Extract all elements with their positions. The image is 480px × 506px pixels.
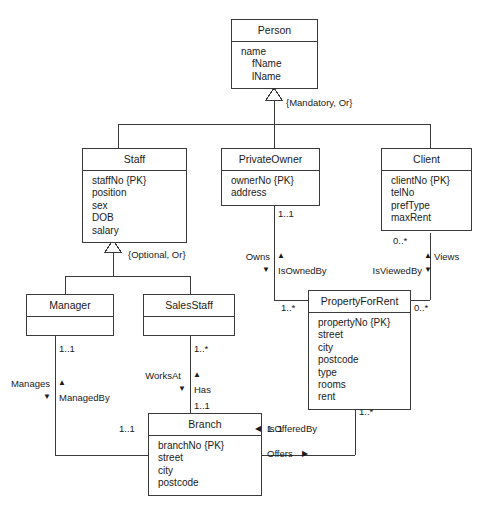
multiplicity-property-left: 1..* [281,302,295,313]
class-name-propertyforrent: PropertyForRent [309,291,410,313]
class-name-staff: Staff [83,149,186,171]
class-name-salesstaff: SalesStaff [144,295,234,317]
arrow-up-icon-isviewedby: ▲ [424,252,432,260]
attribute: branchNo {PK} [158,440,261,452]
class-attributes-privateowner: ownerNo {PK} address [222,171,319,205]
multiplicity-privateowner-bottom: 1..1 [278,208,294,219]
attribute: clientNo {PK} [391,175,471,187]
attribute: postcode [318,354,410,366]
attribute: city [318,342,410,354]
multiplicity-client-bottom: 0..* [393,235,407,246]
generalization-triangle-person [266,88,282,100]
class-name-person: Person [232,20,317,42]
class-box-branch[interactable]: Branch branchNo {PK} street city postcod… [148,413,262,496]
attribute: prefType [391,200,471,212]
arrow-up-icon-manages: ▲ [58,379,66,387]
arrow-left-icon-isofferedby: ◀ [255,425,261,433]
attribute: rooms [318,379,410,391]
arrow-down-icon-isownedby: ▼ [262,266,270,274]
class-name-manager: Manager [27,295,113,317]
attribute: fName [241,58,317,70]
class-attributes-salesstaff [144,317,234,335]
class-attributes-manager [27,317,113,335]
attribute: type [318,367,410,379]
attribute: sex [92,200,186,212]
attribute: lName [241,71,317,83]
attribute: name [241,46,317,58]
multiplicity-branch-left: 1..1 [119,423,135,434]
class-box-person[interactable]: Person name fName lName [231,19,318,89]
class-box-manager[interactable]: Manager [26,294,114,336]
class-name-branch: Branch [149,414,261,436]
class-attributes-client: clientNo {PK} telNo prefType maxRent [382,171,471,230]
multiplicity-branch-top: 1..1 [194,400,210,411]
attribute: rent [318,391,410,403]
attribute: salary [92,225,186,237]
attribute: position [92,187,186,199]
attribute: propertyNo {PK} [318,317,410,329]
role-label-has: Has [194,384,211,395]
multiplicity-property-right: 0..* [414,302,428,313]
class-attributes-branch: branchNo {PK} street city postcode [149,436,261,495]
class-box-staff[interactable]: Staff staffNo {PK} position sex DOB sala… [82,148,187,243]
role-label-managedby: ManagedBy [59,392,110,403]
attribute: staffNo {PK} [92,175,186,187]
attribute: city [158,465,261,477]
arrow-down-icon-views: ▼ [424,266,432,274]
attribute: maxRent [391,212,471,224]
uml-class-diagram: Person name fName lName Staff staffNo {P… [0,0,480,506]
arrow-down-icon-has: ▼ [178,385,186,393]
class-attributes-person: name fName lName [232,42,317,88]
class-attributes-staff: staffNo {PK} position sex DOB salary [83,171,186,242]
arrow-down-icon-managedby: ▼ [43,393,51,401]
class-box-privateowner[interactable]: PrivateOwner ownerNo {PK} address [221,148,320,206]
role-label-views: Views [434,251,459,262]
role-label-owns: Owns [222,251,270,262]
class-attributes-propertyforrent: propertyNo {PK} street city postcode typ… [309,313,410,409]
attribute: street [158,452,261,464]
attribute: telNo [391,187,471,199]
constraint-optional-or: {Optional, Or} [128,249,186,260]
multiplicity-salesstaff-bottom: 1..* [194,343,208,354]
class-box-salesstaff[interactable]: SalesStaff [143,294,235,336]
class-box-propertyforrent[interactable]: PropertyForRent propertyNo {PK} street c… [308,290,411,410]
class-name-privateowner: PrivateOwner [222,149,319,171]
attribute: street [318,329,410,341]
arrow-up-icon-owns: ▲ [277,252,285,260]
role-label-manages: Manages [2,378,50,389]
multiplicity-property-bottom: 1..* [359,406,373,417]
class-box-client[interactable]: Client clientNo {PK} telNo prefType maxR… [381,148,472,231]
arrow-right-icon-offers: ▶ [302,450,308,458]
role-label-isviewedby: IsViewedBy [360,265,422,276]
role-label-worksat: WorksAt [133,370,181,381]
attribute: DOB [92,212,186,224]
attribute: ownerNo {PK} [231,175,319,187]
attribute: address [231,187,319,199]
role-label-isownedby: IsOwnedBy [278,265,327,276]
arrow-up-icon-worksat: ▲ [193,371,201,379]
role-label-offers: Offers [267,448,293,459]
role-label-isofferedby: IsOfferedBy [267,423,317,434]
multiplicity-manager-bottom: 1..1 [59,343,75,354]
class-name-client: Client [382,149,471,171]
attribute: postcode [158,477,261,489]
constraint-mandatory-or: {Mandatory, Or} [286,97,352,108]
